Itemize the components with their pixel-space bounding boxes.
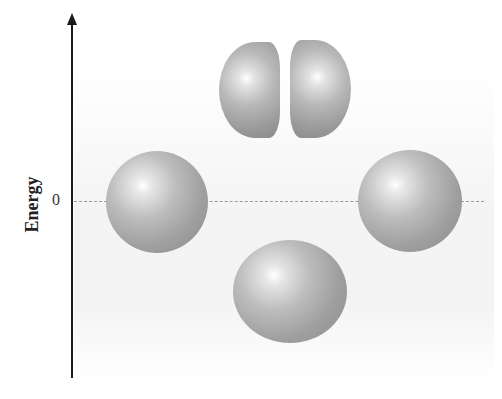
orbital-bottom-sphere [233, 240, 347, 343]
energy-axis-label: Energy [22, 165, 43, 245]
orbital-right-sphere [358, 150, 462, 252]
energy-axis [71, 22, 73, 378]
orbital-left-sphere [106, 151, 208, 253]
zero-tick-label: 0 [52, 191, 60, 209]
